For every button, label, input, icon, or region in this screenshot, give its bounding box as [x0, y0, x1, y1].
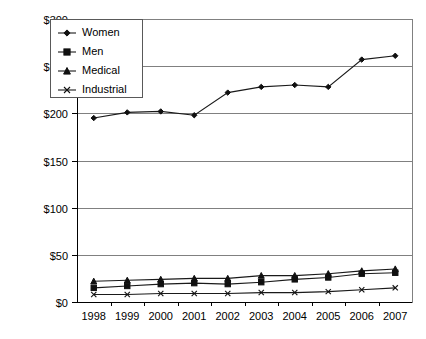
x-tick-label: 2002 — [216, 310, 240, 322]
chart-canvas: $0$50$100$150$200$250$300 19981999200020… — [0, 0, 426, 339]
marker-square — [225, 281, 230, 286]
x-tick-label: 2007 — [383, 310, 407, 322]
series-industrial — [91, 285, 398, 297]
marker-diamond — [91, 115, 96, 120]
x-tick-label: 2003 — [249, 310, 273, 322]
marker-square — [125, 283, 130, 288]
line-chart: $0$50$100$150$200$250$300 19981999200020… — [0, 0, 426, 339]
legend-label: Women — [82, 26, 120, 38]
y-tick-label: $0 — [56, 297, 68, 309]
x-tick-label: 1998 — [82, 310, 106, 322]
marker-diamond — [393, 53, 398, 58]
marker-square — [64, 49, 70, 55]
y-tick-label: $150 — [44, 156, 68, 168]
x-tick-label: 2004 — [283, 310, 307, 322]
marker-square — [259, 279, 264, 284]
x-tick-label: 2001 — [182, 310, 206, 322]
y-tick-label: $50 — [50, 250, 68, 262]
legend-label: Industrial — [82, 83, 127, 95]
marker-diamond — [292, 82, 297, 87]
x-axis-ticks: 1998199920002001200220032004200520062007 — [82, 302, 408, 322]
y-tick-label: $200 — [44, 108, 68, 120]
x-tick-label: 2000 — [149, 310, 173, 322]
x-tick-label: 2005 — [316, 310, 340, 322]
legend-label: Medical — [82, 64, 120, 76]
legend-label: Men — [82, 45, 103, 57]
x-tick-label: 2006 — [350, 310, 374, 322]
marker-diamond — [259, 84, 264, 89]
y-tick-label: $100 — [44, 203, 68, 215]
series-path — [94, 288, 396, 295]
chart-legend: WomenMenMedicalIndustrial — [51, 20, 143, 98]
marker-square — [91, 285, 96, 290]
marker-diamond — [125, 110, 130, 115]
x-tick-label: 1999 — [115, 310, 139, 322]
